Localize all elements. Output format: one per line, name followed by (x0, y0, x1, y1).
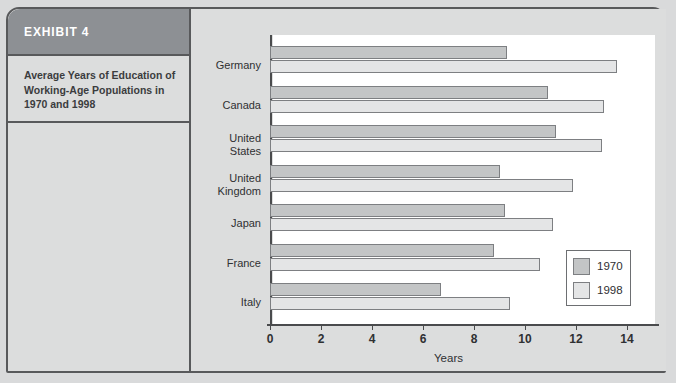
x-axis-tick (474, 324, 475, 330)
exhibit-number-label: EXHIBIT 4 (24, 25, 89, 39)
bar-1970 (270, 125, 556, 138)
legend-label-1998: 1998 (597, 284, 623, 296)
bar-1970 (270, 283, 441, 296)
x-axis-tick-label: 2 (306, 332, 336, 346)
category-label: Italy (241, 296, 261, 309)
x-axis-tick (372, 324, 373, 330)
bar-1998 (270, 179, 573, 192)
bar-1998 (270, 218, 553, 231)
bar-1998 (270, 139, 602, 152)
category-label: Canada (222, 99, 261, 112)
category-label: United States (229, 132, 261, 158)
bar-1970 (270, 165, 500, 178)
x-axis-tick-label: 0 (255, 332, 285, 346)
exhibit-caption-filler (8, 123, 191, 371)
legend-swatch-1970 (573, 258, 590, 275)
x-axis-tick (423, 324, 424, 330)
category-label: France (227, 257, 261, 270)
x-axis-tick (576, 324, 577, 330)
exhibit-caption-text: Average Years of Education of Working-Ag… (24, 68, 182, 112)
x-axis-tick-label: 4 (357, 332, 387, 346)
x-axis-tick-label: 6 (408, 332, 438, 346)
category-label: Germany (216, 59, 261, 72)
chart-legend: 1970 1998 (566, 250, 631, 306)
bar-1970 (270, 204, 505, 217)
bar-group: United Kingdom (270, 165, 627, 205)
bar-1970 (270, 244, 494, 257)
bar-1998 (270, 100, 604, 113)
chart-panel: GermanyCanadaUnited StatesUnited Kingdom… (193, 9, 666, 371)
x-axis-tick-label: 10 (510, 332, 540, 346)
exhibit-caption-column: EXHIBIT 4 Average Years of Education of … (8, 9, 191, 371)
bar-1998 (270, 60, 617, 73)
bar-1998 (270, 258, 540, 271)
bar-1970 (270, 46, 507, 59)
bar-1970 (270, 86, 548, 99)
x-axis-tick-label: 14 (612, 332, 642, 346)
exhibit-page: EXHIBIT 4 Average Years of Education of … (0, 0, 676, 383)
x-axis-tick (270, 324, 271, 330)
bar-1998 (270, 297, 510, 310)
category-label: United Kingdom (218, 172, 261, 198)
bar-group: United States (270, 125, 627, 165)
exhibit-caption-block: Average Years of Education of Working-Ag… (8, 56, 191, 123)
x-axis-title: Years (270, 352, 627, 364)
x-axis-tick (321, 324, 322, 330)
legend-swatch-1998 (573, 282, 590, 299)
bar-group: Japan (270, 204, 627, 244)
x-axis-tick-label: 8 (459, 332, 489, 346)
x-axis-tick (627, 324, 628, 330)
category-label: Japan (231, 217, 261, 230)
exhibit-frame: EXHIBIT 4 Average Years of Education of … (6, 7, 666, 373)
bar-group: Germany (270, 46, 627, 86)
bar-group: Canada (270, 86, 627, 126)
exhibit-header-band: EXHIBIT 4 (8, 9, 191, 56)
legend-label-1970: 1970 (597, 260, 623, 272)
x-axis-tick-label: 12 (561, 332, 591, 346)
x-axis-tick (525, 324, 526, 330)
x-axis-line (267, 324, 659, 326)
